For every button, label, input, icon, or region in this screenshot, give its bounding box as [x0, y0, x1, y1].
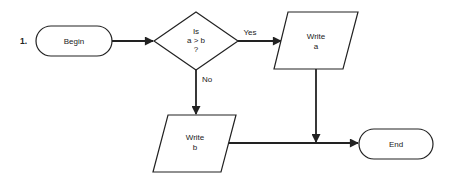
flowchart-canvas	[0, 0, 455, 181]
begin-label: Begin	[36, 37, 112, 46]
write-b-label-line1: Write	[175, 133, 215, 142]
no-label: No	[199, 75, 215, 84]
decision-label-line2: a > b	[176, 36, 216, 45]
decision-label-line3: ?	[176, 45, 216, 54]
end-label: End	[359, 140, 433, 149]
write-a-label-line1: Write	[296, 32, 336, 41]
write-b-label-line2: b	[175, 143, 215, 152]
decision-label-line1: Is	[176, 27, 216, 36]
yes-label: Yes	[240, 28, 260, 37]
write-a-label-line2: a	[296, 42, 336, 51]
step-number: 1.	[20, 36, 27, 46]
